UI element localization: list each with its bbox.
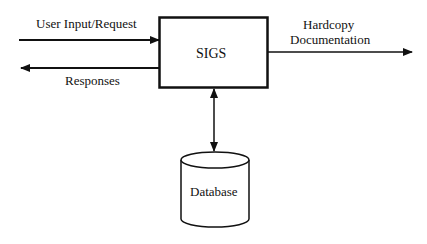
- sigs-label: SIGS: [196, 47, 226, 61]
- hardcopy-label-line2: Documentation: [290, 33, 370, 47]
- user-input-label: User Input/Request: [36, 17, 137, 31]
- database-label: Database: [190, 185, 238, 199]
- hardcopy-label-line1: Hardcopy: [303, 18, 354, 32]
- responses-label: Responses: [65, 74, 120, 88]
